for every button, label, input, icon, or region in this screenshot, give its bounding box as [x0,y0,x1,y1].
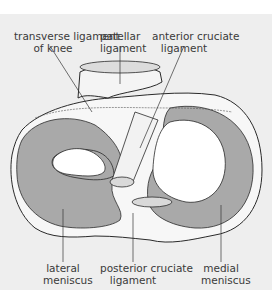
label-anterior-cruciate: anterior cruciate ligament [152,30,216,54]
label-posterior-cruciate: posterior cruciate ligament [100,262,166,286]
posterior-cruciate-shape [132,197,172,207]
label-lateral-meniscus: lateral meniscus [43,262,83,286]
label-medial-meniscus: medial meniscus [201,262,241,286]
label-transverse-ligament: transverse ligament of knee [14,30,92,54]
label-patellar-ligament: patellar ligament [100,30,140,54]
